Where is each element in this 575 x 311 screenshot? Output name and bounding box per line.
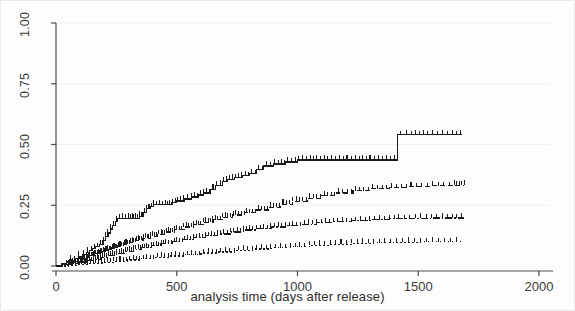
gridlines-group [56,23,551,205]
y-axis-tick-label: 0.00 [9,257,41,275]
axes-group [51,23,553,276]
chart-container: 0.000.250.500.751.00 0500100015002000 an… [0,0,575,311]
y-axis-tick-label: 0.75 [9,75,41,93]
x-axis-title: analysis time (days after release) [1,289,574,304]
censor-marks-dense-group [68,181,461,264]
chart-canvas [1,1,575,311]
y-axis-tick-label: 0.25 [9,196,41,214]
series-group [56,130,464,266]
y-axis-tick-label: 0.50 [9,136,41,154]
y-axis-tick-label: 1.00 [9,14,41,32]
censor-marks-dense-group [70,214,457,265]
